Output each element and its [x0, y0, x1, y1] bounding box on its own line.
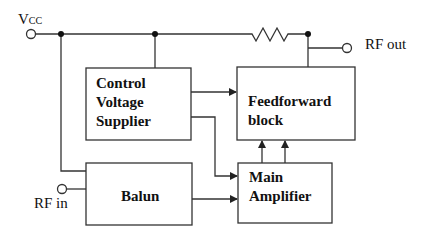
main-amplifier-block: Main Amplifier: [249, 168, 311, 206]
balun-block: Balun: [121, 187, 159, 206]
junction-dot-icon: [305, 31, 311, 37]
junction-dot-icon: [58, 31, 64, 37]
control-to-amplifier-arrow: [191, 117, 237, 176]
feedforward-block: Feedforward block: [248, 92, 331, 130]
rf-in-label: RF in: [34, 195, 68, 212]
vcc-terminal-icon: [27, 30, 36, 39]
resistor: [248, 28, 308, 41]
rf-out-label: RF out: [365, 36, 406, 53]
rf-in-terminal-icon: [58, 185, 67, 194]
control-voltage-supplier-block: Control Voltage Supplier: [96, 74, 151, 131]
vcc-label: VCC: [18, 11, 42, 28]
junction-dot-icon: [152, 31, 158, 37]
vcc-to-balun-wire: [61, 34, 86, 171]
rf-out-terminal-icon: [343, 44, 352, 53]
